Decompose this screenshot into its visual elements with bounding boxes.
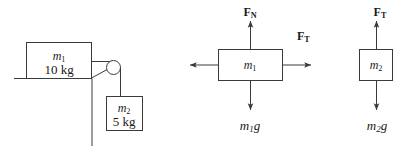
fbd2-weight-label: m2g [367, 119, 387, 134]
fbd1-body-label: m1 [244, 59, 257, 73]
block-m2-mass-value: 5 kg [113, 115, 136, 128]
fbd2-body-label: m2 [370, 59, 383, 73]
fbd1-weight-label: m1g [240, 119, 260, 134]
fbd1-normal-force-label: FN [243, 6, 256, 20]
fbd1-tension-force-label: FT [297, 30, 310, 44]
fbd2-tension-force-label: FT [374, 6, 387, 20]
pulley-system-group [14, 43, 143, 147]
block-m1-mass-value: 10 kg [44, 63, 73, 76]
physics-figure: m1 10 kg m2 5 kg m1 FN FT m1g m2 FT m2g [0, 0, 411, 146]
pulley-wheel-icon [107, 61, 121, 75]
